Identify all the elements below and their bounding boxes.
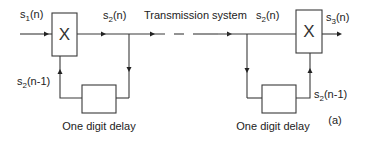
encoder-feedback-label: s2(n-1): [17, 75, 50, 90]
decoder-output-arrow-icon: [337, 32, 342, 37]
encoder-output-label: s2(n): [103, 9, 126, 24]
differential-coding-diagram: s1(n) X s2(n) One digit delay s2(n-1) Tr…: [0, 0, 368, 143]
transmission-system: Transmission system: [144, 9, 247, 37]
decoder-input-label: s2(n): [256, 9, 279, 24]
encoder-feedback-line: [60, 56, 82, 98]
encoder: s1(n) X s2(n) One digit delay s2(n-1): [17, 8, 165, 132]
encoder-feedback-arrow-icon: [58, 69, 63, 74]
encoder-multiplier-symbol: X: [59, 25, 70, 44]
channel-arrow-icon: [150, 32, 155, 37]
transmission-system-label: Transmission system: [144, 9, 247, 21]
figure-label: (a): [328, 114, 341, 126]
encoder-input-label: s1(n): [20, 8, 43, 23]
decoder-feedback-arrow-icon: [308, 68, 313, 73]
encoder-input-arrow-icon: [44, 32, 49, 37]
encoder-delay-label: One digit delay: [62, 120, 136, 132]
decoder-branch-arrow-icon: [245, 68, 250, 73]
decoder-feedback-line: [296, 53, 310, 98]
decoder-delay-box: [262, 85, 296, 113]
decoder-multiplier-symbol: X: [303, 22, 314, 41]
decoder-output-label: s3(n): [326, 11, 349, 26]
decoder-feedback-label: s2(n-1): [314, 88, 347, 103]
encoder-output-arrow-icon: [101, 32, 106, 37]
decoder-delay-label: One digit delay: [236, 120, 310, 132]
encoder-branch-arrow-icon: [127, 67, 132, 72]
encoder-delay-box: [82, 85, 116, 113]
